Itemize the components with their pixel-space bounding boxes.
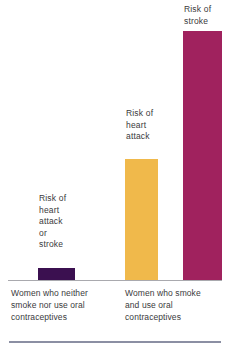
bar-label-risk-of-heart-attack: Risk of heart attack xyxy=(126,108,178,143)
axis-baseline xyxy=(8,280,222,281)
bar-label-risk-of-heart-attack-or-stroke: Risk of heart attack or stroke xyxy=(39,193,89,251)
bar-risk-of-heart-attack xyxy=(125,159,158,281)
plot-area: Risk of heart attack or stroke Risk of h… xyxy=(0,0,230,281)
risk-comparison-bar-chart: Risk of heart attack or stroke Risk of h… xyxy=(0,0,230,352)
category-axis-labels: Women who neither smoke nor use oral con… xyxy=(0,288,230,334)
bar-label-risk-of-stroke: Risk of stroke xyxy=(184,4,230,27)
category-label-smokers-with-oral-contraceptives: Women who smoke and use oral contracepti… xyxy=(125,288,227,323)
bar-risk-of-stroke xyxy=(183,31,222,281)
category-label-non-smokers-no-oral-contraceptives: Women who neither smoke nor use oral con… xyxy=(11,288,116,323)
bottom-divider-rule xyxy=(9,341,221,343)
